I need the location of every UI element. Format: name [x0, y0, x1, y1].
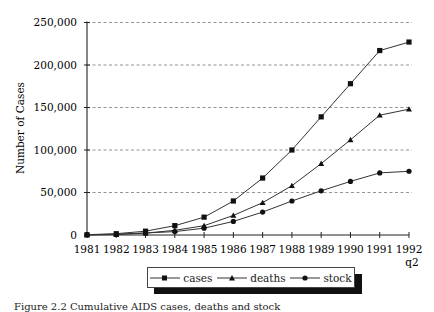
circle-marker-icon [290, 274, 320, 282]
series-deaths [84, 106, 412, 237]
x-tick-label: 1986 [220, 243, 247, 255]
legend-label: cases [183, 272, 212, 284]
x-tick-label: 1991 [366, 243, 393, 255]
x-tick-label: 1990 [337, 243, 364, 255]
gridlines [87, 23, 412, 193]
y-tick-label: 100,000 [34, 144, 77, 156]
x-tick-label: 1981 [74, 243, 101, 255]
legend-item-deaths: deaths [217, 272, 286, 284]
legend-item-cases: cases [150, 272, 212, 284]
x-axis-ticks: 1981198219831984198519861987198819891990… [74, 232, 423, 268]
y-tick-label: 50,000 [40, 186, 77, 198]
x-tick-label: 1987 [249, 243, 276, 255]
x-tick-label: 1989 [308, 243, 335, 255]
legend-label: stock [323, 272, 351, 284]
y-axis-ticks: 050,000100,000150,000200,000250,000 [34, 16, 90, 241]
legend: cases deaths stock [147, 267, 355, 288]
triangle-marker-icon [217, 274, 247, 282]
legend-item-stock: stock [290, 272, 351, 284]
y-tick-label: 150,000 [34, 101, 77, 113]
y-axis-label: Number of Cases [14, 82, 26, 174]
figure-caption: Figure 2.2 Cumulative AIDS cases, deaths… [14, 301, 280, 312]
x-tick-label: 1982 [103, 243, 130, 255]
square-marker-icon [150, 274, 180, 282]
x-tick-label: 1992 [396, 243, 423, 255]
y-tick-label: 250,000 [34, 16, 77, 28]
x-tick-label: 1984 [161, 243, 188, 255]
legend-label: deaths [250, 272, 286, 284]
y-tick-label: 0 [70, 229, 77, 241]
data-series [84, 39, 412, 237]
y-tick-label: 200,000 [34, 59, 77, 71]
x-tick-sublabel: q2 [405, 256, 418, 268]
axes [87, 22, 409, 236]
x-tick-label: 1985 [191, 243, 218, 255]
x-tick-label: 1988 [279, 243, 306, 255]
series-stock [84, 169, 411, 238]
x-tick-label: 1983 [132, 243, 159, 255]
series-cases [84, 39, 411, 237]
